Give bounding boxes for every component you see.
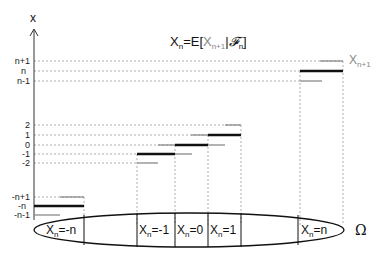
tick-label: 2 — [25, 120, 30, 130]
partition-label: Xn=-1 — [139, 223, 169, 239]
tick-label: 1 — [25, 130, 30, 140]
partition-label: Xn=n — [301, 223, 327, 239]
omega-label: Ω — [355, 222, 367, 238]
tick-label: n-1 — [17, 76, 30, 86]
title-formula: Xn=E[Xn+1|𝓕n] — [170, 34, 247, 51]
martingale-diagram: x n+1 n n-1 2 1 0 -1 -2 -n+1 -n -n-1 Xn=… — [0, 0, 387, 262]
legend-xn1: Xn+1 — [349, 53, 371, 69]
guide-lines — [34, 61, 343, 197]
diagram-canvas: x n+1 n n-1 2 1 0 -1 -2 -n+1 -n -n-1 Xn=… — [0, 0, 387, 262]
vertical-guides — [84, 61, 343, 225]
axis-label: x — [30, 11, 36, 25]
y-axis — [30, 29, 38, 220]
partition-label: Xn=-n — [46, 223, 76, 239]
partition-label: Xn=1 — [210, 223, 236, 239]
tick-label: -n-1 — [14, 210, 30, 220]
tick-label: n — [21, 66, 26, 76]
tick-label: n+1 — [15, 56, 30, 66]
tick-label: -2 — [22, 158, 30, 168]
tick-labels: n+1 n n-1 2 1 0 -1 -2 -n+1 -n -n-1 — [12, 56, 30, 220]
partition-label: Xn=0 — [177, 223, 203, 239]
segments — [34, 61, 343, 215]
